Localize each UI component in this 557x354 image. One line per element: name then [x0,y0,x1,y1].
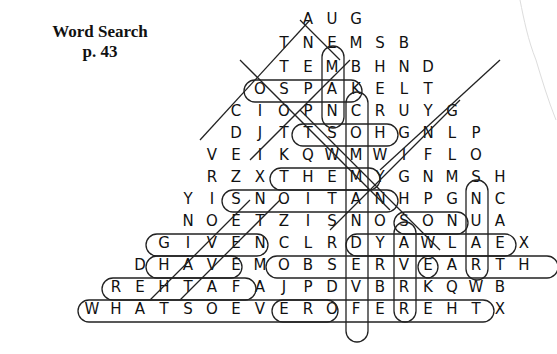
loop-have [146,256,242,278]
loop-diag-2 [300,20,340,60]
loop-vertical-1 [322,46,344,128]
loop-rehtaf [102,278,256,300]
loop-vertical-3 [394,222,416,322]
loop-diag-8 [300,110,440,250]
loop-them [270,168,380,190]
loop-diag-6 [150,200,250,300]
loop-oferht [272,300,494,322]
loop-yawla [346,234,516,256]
loop-whatsoever [78,300,338,322]
word-loops [0,0,557,354]
loop-diag-4 [330,100,460,230]
paper-edge [510,0,557,120]
loop-observe [266,256,438,278]
loop-hcaet [466,180,488,280]
loop-diag-7 [180,200,280,300]
loop-given [146,234,268,256]
loop-diag-5 [380,60,500,170]
loop-vertical-2 [346,92,368,342]
